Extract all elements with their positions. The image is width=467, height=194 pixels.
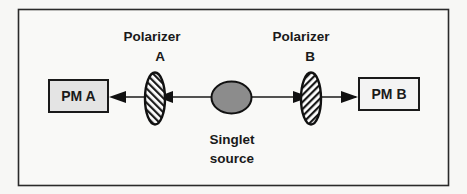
pm-a-label: PM A [61,88,95,104]
polarizer-b-letter: B [305,49,315,64]
polarizer-a-title: Polarizer [123,29,181,44]
source-ellipse-icon [212,82,252,114]
detector-pm-b: PM B [359,78,419,110]
polarizer-a-letter: A [155,49,165,64]
polarizer-b-hatched-ellipse-icon [301,73,321,125]
source-label-line2: source [210,151,255,166]
singlet-polarizer-diagram: PM A PM B Polarizer A Polarizer B Single… [0,0,467,194]
detector-pm-a: PM A [49,80,108,112]
pm-b-label: PM B [372,86,407,102]
polarizer-b-title: Polarizer [272,29,330,44]
source-label-line1: Singlet [209,132,255,147]
polarizer-a-hatched-ellipse-icon [145,73,165,125]
